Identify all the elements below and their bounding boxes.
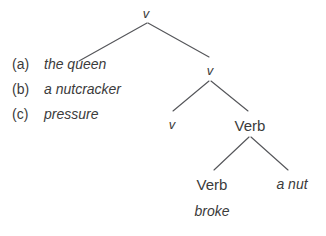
alternative-text-a: the queen	[44, 56, 106, 72]
tree-node-broke: broke	[194, 204, 229, 218]
tree-node-a-nut: a nut	[276, 177, 307, 191]
alternative-marker-b: (b)	[12, 81, 44, 97]
alternative-text-b: a nutcracker	[44, 81, 121, 97]
branch-v2-to-verb-upper	[211, 81, 248, 111]
syntax-tree-figure: (a) the queen (b) a nutcracker (c) press…	[0, 0, 326, 236]
alternatives-list: (a) the queen (b) a nutcracker (c) press…	[12, 56, 172, 131]
tree-node-root-v: v	[143, 7, 150, 20]
tree-node-v-third: v	[169, 118, 176, 131]
branch-verb-upper-to-verb-lower	[214, 137, 249, 170]
branch-root-to-v2	[148, 23, 209, 57]
list-item: (c) pressure	[12, 106, 172, 131]
branch-v2-to-v3	[173, 81, 209, 111]
tree-node-verb-upper: Verb	[235, 118, 266, 133]
tree-node-v-second: v	[207, 64, 214, 77]
alternative-marker-a: (a)	[12, 56, 44, 72]
branch-verb-upper-to-a-nut	[251, 137, 288, 170]
alternative-text-c: pressure	[44, 106, 98, 122]
tree-node-verb-lower: Verb	[197, 177, 228, 192]
list-item: (a) the queen	[12, 56, 172, 81]
alternative-marker-c: (c)	[12, 106, 44, 122]
list-item: (b) a nutcracker	[12, 81, 172, 106]
